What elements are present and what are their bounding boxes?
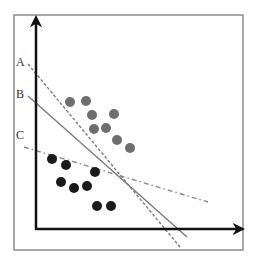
dark-point-dot	[69, 183, 79, 193]
gray-point-dot	[65, 97, 75, 107]
line-b	[28, 96, 187, 237]
dark-point-dot	[61, 160, 71, 170]
line-label-c: C	[16, 128, 24, 142]
gray-point-dot	[125, 143, 135, 153]
gray-point-dot	[109, 109, 119, 119]
dark-point-dot	[90, 167, 100, 177]
gray-point-dot	[81, 96, 91, 106]
gray-point-dot	[87, 110, 97, 120]
dark-point-dot	[56, 177, 66, 187]
line-label-b: B	[16, 87, 24, 101]
dark-point-dot	[92, 201, 102, 211]
dark-point-dot	[47, 154, 57, 164]
gray-point-dot	[89, 124, 99, 134]
line-labels: ABC	[16, 55, 25, 142]
separating-lines-diagram: ABC	[0, 0, 255, 262]
gray-point-dot	[101, 123, 111, 133]
diagram-frame	[14, 15, 243, 250]
line-label-a: A	[16, 55, 25, 69]
data-points	[47, 96, 135, 211]
dark-point-dot	[106, 201, 116, 211]
gray-point-dot	[112, 135, 122, 145]
dark-point-dot	[82, 181, 92, 191]
